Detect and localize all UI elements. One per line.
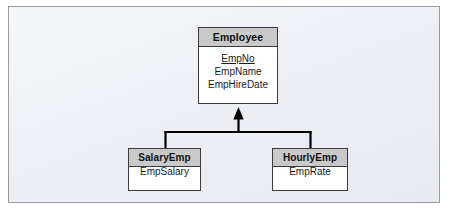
diagram-canvas: Employee EmpNo EmpName EmpHireDate Salar…	[0, 0, 463, 217]
class-name-hourlyemp: HourlyEmp	[273, 149, 347, 167]
attribute-emphiredate: EmpHireDate	[199, 80, 277, 90]
attribute-list-salaryemp: EmpSalary	[129, 167, 200, 190]
attribute-list-hourlyemp: EmpRate	[273, 167, 347, 190]
class-name-employee: Employee	[199, 28, 277, 47]
attribute-empname: EmpName	[199, 67, 277, 77]
attribute-list-employee: EmpNo EmpName EmpHireDate	[199, 47, 277, 103]
attribute-empsalary: EmpSalary	[129, 167, 200, 177]
class-name-salaryemp: SalaryEmp	[129, 149, 200, 167]
class-box-hourlyemp[interactable]: HourlyEmp EmpRate	[272, 148, 348, 191]
class-box-employee[interactable]: Employee EmpNo EmpName EmpHireDate	[198, 27, 278, 104]
generalization-arrowhead-icon	[233, 107, 243, 120]
attribute-empno: EmpNo	[199, 54, 277, 64]
attribute-emprate: EmpRate	[273, 167, 347, 177]
class-box-salaryemp[interactable]: SalaryEmp EmpSalary	[128, 148, 201, 191]
